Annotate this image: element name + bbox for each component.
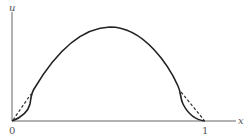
x-axis-label: x [238,115,244,126]
diagram: u x 0 1 [0,0,250,140]
one-tick-label: 1 [202,125,208,136]
y-axis-label: u [9,2,15,13]
origin-label: 0 [9,125,15,136]
solution-curve [12,27,205,121]
